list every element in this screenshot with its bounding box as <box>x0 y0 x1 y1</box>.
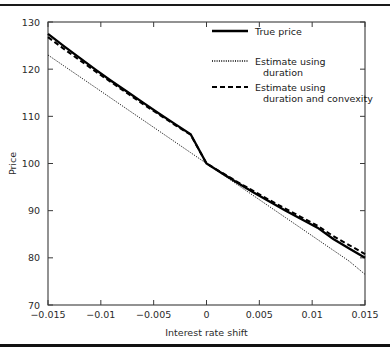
y-tick-label: 100 <box>22 158 40 169</box>
price-vs-rate-shift-chart: −0.015−0.01−0.00500.0050.010.015 7080901… <box>0 0 390 353</box>
x-axis-title: Interest rate shift <box>165 327 248 338</box>
y-tick-label: 110 <box>22 111 40 122</box>
x-tick-label: 0.005 <box>246 309 273 320</box>
legend-label-convexity-line2: duration and convexity <box>263 93 373 104</box>
series-line-true-price <box>48 34 365 258</box>
x-axis-tick-labels: −0.015−0.01−0.00500.0050.010.015 <box>30 309 378 320</box>
x-tick-label: 0 <box>203 309 209 320</box>
y-tick-label: 120 <box>22 64 40 75</box>
legend-label-true-price: True price <box>254 26 302 37</box>
x-tick-label: −0.01 <box>86 309 115 320</box>
y-axis-title: Price <box>7 152 18 175</box>
legend-label-duration-line2: duration <box>263 67 303 78</box>
figure-container: −0.015−0.01−0.00500.0050.010.015 7080901… <box>0 0 390 353</box>
x-tick-label: −0.005 <box>136 309 171 320</box>
chart-legend: True price Estimate using duration Estim… <box>212 26 373 105</box>
y-tick-label: 90 <box>28 205 40 216</box>
x-tick-label: 0.015 <box>351 309 378 320</box>
data-series-layer <box>48 34 365 275</box>
y-axis-tick-labels: 708090100110120130 <box>22 17 40 311</box>
legend-label-duration: Estimate using <box>255 56 326 67</box>
y-tick-label: 70 <box>28 300 40 311</box>
y-tick-label: 80 <box>28 252 40 263</box>
legend-label-convexity: Estimate using <box>255 82 326 93</box>
x-tick-label: −0.015 <box>30 309 65 320</box>
x-tick-label: 0.01 <box>302 309 323 320</box>
y-tick-label: 130 <box>22 17 40 28</box>
